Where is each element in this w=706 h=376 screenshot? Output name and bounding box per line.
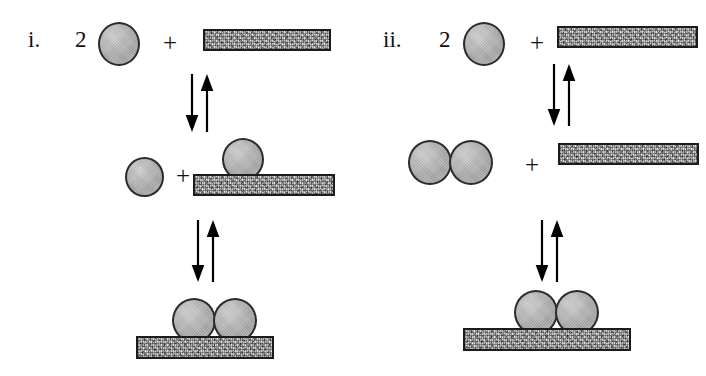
- panel-ii-row1-coefficient: 2: [439, 28, 451, 51]
- panel-i-equilibrium-arrows-2: [189, 218, 229, 284]
- panel-ii-row2-slab: [558, 143, 699, 165]
- panel-ii-row3-slab: [463, 328, 631, 351]
- panel-ii-row1-slab: [557, 26, 698, 48]
- panel-ii-label: ii.: [383, 28, 402, 51]
- panel-ii-equilibrium-arrows-2: [533, 218, 573, 284]
- panel-i: i. 2 + +: [0, 0, 353, 376]
- panel-ii-equilibrium-arrows-1: [545, 62, 585, 128]
- panel-i-row3-slab: [136, 336, 274, 359]
- panel-ii-row2-dimer-particle-right: [449, 140, 493, 185]
- panel-ii-row2-plus: +: [525, 152, 539, 177]
- panel-ii-row2-dimer-particle-left: [408, 140, 452, 185]
- panel-i-label: i.: [28, 28, 40, 51]
- panel-i-row1-slab: [203, 29, 331, 51]
- panel-ii-row1-plus: +: [530, 30, 544, 55]
- panel-i-row2-slab: [193, 174, 335, 196]
- reaction-mechanism-figure: i. 2 + +: [0, 0, 706, 376]
- panel-i-row1-coefficient: 2: [75, 28, 87, 51]
- panel-ii: ii. 2 + +: [353, 0, 706, 376]
- panel-i-row1-plus: +: [163, 30, 177, 55]
- panel-ii-row1-particle: [463, 22, 505, 66]
- panel-i-equilibrium-arrows-1: [183, 72, 223, 134]
- panel-i-row2-free-particle: [125, 157, 164, 197]
- panel-i-row1-particle: [98, 22, 140, 66]
- panel-i-row2-plus: +: [176, 163, 190, 188]
